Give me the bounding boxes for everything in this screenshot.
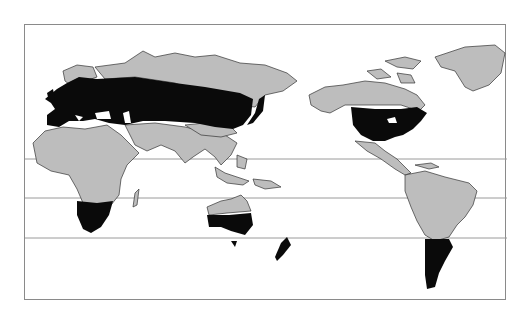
region-tasmania [231,241,237,247]
clipped-caption [170,0,360,3]
region-new-zealand [275,237,291,261]
region-southern-australia [207,213,253,235]
world-map [24,24,506,300]
region-southern-south-america [425,239,453,289]
map-canvas [25,25,507,301]
region-southern-africa [77,201,113,233]
region-usa [351,107,427,141]
